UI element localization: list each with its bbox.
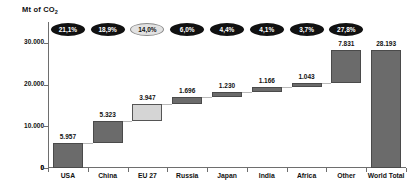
bar-africa <box>292 83 322 87</box>
y-axis-title-subscript: 2 <box>55 9 58 15</box>
plot-area: 010.00020.00030.0000 5.9575.3233.9471.69… <box>48 22 406 168</box>
waterfall-connector <box>162 104 172 105</box>
x-axis-tick-mark <box>48 168 49 172</box>
percent-badge-africa: 3,7% <box>290 23 324 36</box>
category-label-world-total: World Total <box>368 172 405 179</box>
x-axis-tick-mark <box>247 168 248 172</box>
y-axis-line <box>48 22 49 168</box>
bar-russia <box>172 97 202 104</box>
y-axis-tick-label: 10.000 <box>24 122 44 129</box>
bar-japan <box>212 92 242 97</box>
x-axis-tick-mark <box>326 168 327 172</box>
category-label-africa: Africa <box>297 172 316 179</box>
waterfall-connector <box>123 121 133 122</box>
category-label-china: China <box>98 172 117 179</box>
waterfall-connector <box>322 83 332 84</box>
bar-india <box>252 87 282 92</box>
x-axis-tick-mark <box>287 168 288 172</box>
bar-value-label: 3.947 <box>123 94 171 101</box>
bar-china <box>93 121 123 143</box>
bar-value-label: 5.323 <box>84 111 132 118</box>
bar-eu-27 <box>132 104 162 120</box>
category-label-eu-27: EU 27 <box>138 172 157 179</box>
y-axis-tick-label: 0 <box>40 164 44 171</box>
category-label-usa: USA <box>61 172 75 179</box>
percent-badge-russia: 6,0% <box>170 23 204 36</box>
percent-badge-japan: 4,4% <box>210 23 244 36</box>
bar-value-label: 28.193 <box>362 40 410 47</box>
category-label-russia: Russia <box>176 172 198 179</box>
x-axis-tick-mark <box>88 168 89 172</box>
waterfall-connector <box>282 87 292 88</box>
percent-badge-india: 4,1% <box>250 23 284 36</box>
bar-value-label: 5.957 <box>44 133 92 140</box>
y-axis-tick-label: 30.000 <box>24 38 44 45</box>
category-label-other: Other <box>337 172 355 179</box>
category-label-japan: Japan <box>217 172 237 179</box>
percent-badge-china: 18,9% <box>91 23 125 36</box>
bar-usa <box>53 143 83 168</box>
category-label-india: India <box>259 172 275 179</box>
y-axis-tick-label: 20.000 <box>24 80 44 87</box>
bar-value-label: 1.043 <box>283 73 331 80</box>
bar-world-total <box>371 50 401 168</box>
bar-other <box>331 50 361 83</box>
y-axis-tick-mark <box>44 126 48 127</box>
y-axis-tick-mark <box>44 85 48 86</box>
waterfall-connector <box>242 92 252 93</box>
y-axis-title-text: Mt of CO <box>22 5 55 14</box>
y-axis-tick-mark <box>44 43 48 44</box>
x-axis-tick-mark <box>128 168 129 172</box>
x-axis-tick-mark <box>406 168 407 172</box>
x-axis-tick-mark <box>167 168 168 172</box>
waterfall-connector <box>202 97 212 98</box>
percent-badge-usa: 21,1% <box>51 23 85 36</box>
x-axis-tick-mark <box>207 168 208 172</box>
waterfall-connector <box>83 143 93 144</box>
y-axis-title: Mt of CO2 <box>22 5 58 14</box>
co2-waterfall-chart: Mt of CO2 010.00020.00030.0000 5.9575.32… <box>0 0 412 192</box>
x-axis-line <box>48 167 406 168</box>
